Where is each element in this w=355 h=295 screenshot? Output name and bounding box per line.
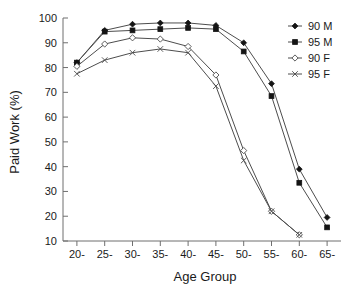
legend-item-label: 90 M [308, 20, 332, 32]
x-axis-title: Age Group [174, 269, 237, 284]
x-tick-label: 65- [319, 248, 335, 260]
y-tick-label: 80 [45, 62, 57, 74]
x-tick-label: 20- [69, 248, 85, 260]
y-tick-label: 20 [45, 210, 57, 222]
y-tick-label: 30 [45, 185, 57, 197]
y-tick-label: 70 [45, 86, 57, 98]
legend-item-label: 95 M [308, 36, 332, 48]
chart-figure: Paid Work (%) Age Group 1020304050607080… [0, 0, 355, 295]
y-axis-title: Paid Work (%) [7, 90, 22, 174]
y-tick-label: 40 [45, 161, 57, 173]
x-tick-label: 35- [152, 248, 168, 260]
x-tick-label: 45- [208, 248, 224, 260]
data-point-marker [241, 49, 246, 54]
legend-item-label: 95 F [308, 68, 330, 80]
data-point-marker [297, 180, 302, 185]
y-tick-label: 100 [39, 12, 57, 24]
data-point-marker [130, 28, 135, 33]
paid-work-line-chart: Paid Work (%) Age Group 1020304050607080… [0, 0, 355, 295]
y-tick-label: 60 [45, 111, 57, 123]
legend-marker-icon [293, 40, 298, 45]
legend-item-label: 90 F [308, 52, 330, 64]
x-tick-label: 50- [236, 248, 252, 260]
x-tick-label: 25- [97, 248, 113, 260]
data-point-marker [186, 26, 191, 31]
data-point-marker [214, 27, 219, 32]
x-tick-label: 30- [125, 248, 141, 260]
y-tick-label: 90 [45, 37, 57, 49]
x-tick-label: 40- [180, 248, 196, 260]
y-tick-label: 10 [45, 235, 57, 247]
x-tick-label: 60- [291, 248, 307, 260]
data-point-marker [269, 94, 274, 99]
data-point-marker [325, 225, 330, 230]
y-tick-label: 50 [45, 136, 57, 148]
x-tick-label: 55- [264, 248, 280, 260]
data-point-marker [158, 27, 163, 32]
data-point-marker [102, 29, 107, 34]
